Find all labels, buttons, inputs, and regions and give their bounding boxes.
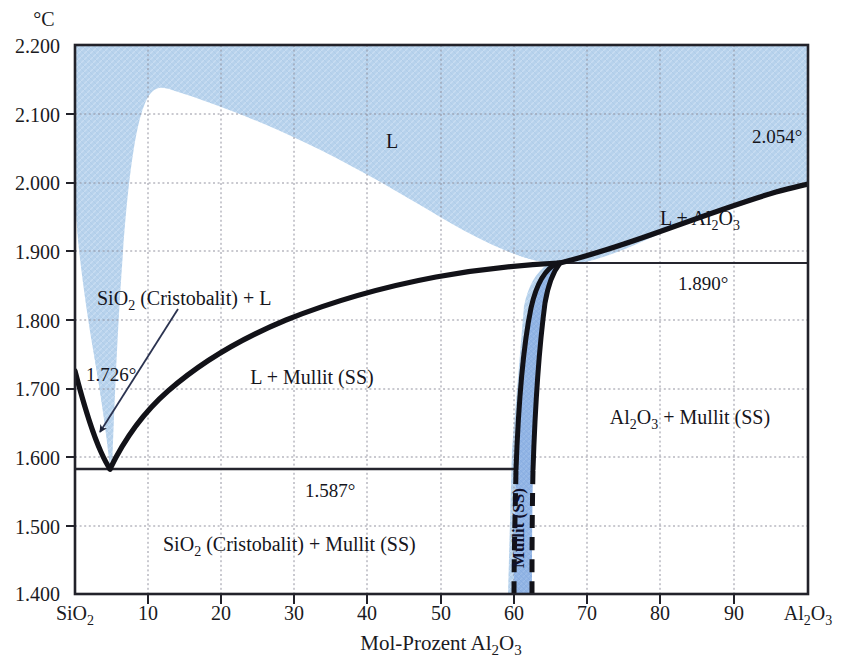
- y-tick-1900: 1.900: [15, 241, 60, 263]
- x-tick-20: 20: [211, 602, 231, 624]
- x-tick-60: 60: [504, 602, 524, 624]
- phase-diagram-figure: °C 2.200 2.100 2.000 1.900 1.800 1.700 1…: [0, 0, 847, 659]
- x-tick-80: 80: [650, 602, 670, 624]
- x-tick-30: 30: [284, 602, 304, 624]
- y-tick-2200: 2.200: [15, 35, 60, 57]
- phase-diagram-svg: °C 2.200 2.100 2.000 1.900 1.800 1.700 1…: [0, 0, 847, 659]
- y-axis-unit: °C: [33, 8, 54, 30]
- label-temp-1587: 1.587°: [305, 480, 355, 501]
- label-temp-1890: 1.890°: [678, 273, 728, 294]
- x-tick-40: 40: [357, 602, 377, 624]
- y-tick-1500: 1.500: [15, 516, 60, 538]
- y-tick-1800: 1.800: [15, 310, 60, 332]
- label-mullite-ss: Mullit (SS): [509, 488, 528, 568]
- x-tick-70: 70: [577, 602, 597, 624]
- y-tick-1400: 1.400: [15, 583, 60, 605]
- label-liquid: L: [386, 130, 398, 152]
- label-temp-2054: 2.054°: [752, 126, 802, 147]
- y-tick-2100: 2.100: [15, 104, 60, 126]
- y-tick-1600: 1.600: [15, 447, 60, 469]
- y-tick-1700: 1.700: [15, 378, 60, 400]
- y-tick-labels: 2.200 2.100 2.000 1.900 1.800 1.700 1.60…: [15, 35, 60, 605]
- x-tick-90: 90: [724, 602, 744, 624]
- label-liquid-plus-mullite: L + Mullit (SS): [250, 366, 373, 389]
- x-tick-10: 10: [138, 602, 158, 624]
- label-temp-1726: 1.726°: [86, 364, 136, 385]
- y-tick-2000: 2.000: [15, 172, 60, 194]
- x-tick-50: 50: [431, 602, 451, 624]
